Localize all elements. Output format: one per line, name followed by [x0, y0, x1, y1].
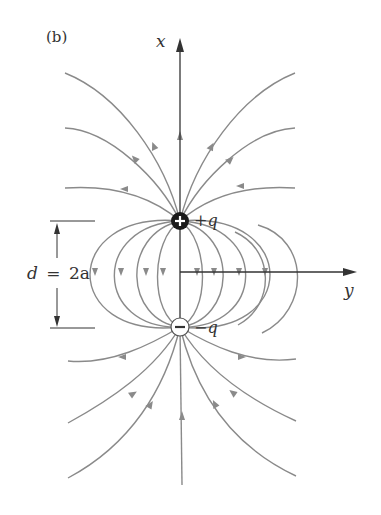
positive-charge	[171, 212, 189, 230]
field-lines-bottom	[68, 327, 296, 485]
negative-charge-label: −q	[194, 318, 218, 337]
dimension-down-arrow-icon	[54, 316, 60, 327]
positive-charge-label: +q	[194, 211, 218, 230]
y-axis-arrow-icon	[343, 268, 357, 276]
dimension-label: d = 2a	[27, 263, 90, 283]
panel-label: (b)	[46, 28, 67, 46]
negative-charge	[171, 318, 189, 336]
dipole-diagram: (b)	[0, 0, 381, 515]
dimension-up-arrow-icon	[54, 223, 60, 234]
x-axis-arrow-icon	[176, 38, 184, 52]
x-axis-label: x	[156, 31, 166, 51]
axes	[176, 38, 357, 327]
y-axis-label: y	[343, 280, 354, 300]
